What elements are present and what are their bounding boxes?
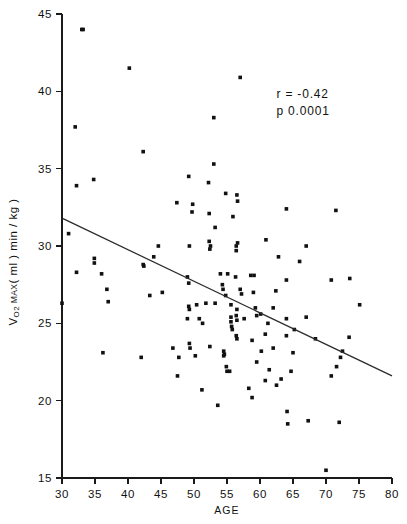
data-point bbox=[212, 116, 216, 120]
data-point bbox=[226, 272, 230, 276]
data-point bbox=[204, 301, 208, 305]
data-point bbox=[213, 301, 217, 305]
regression-line-path bbox=[62, 218, 392, 376]
data-point bbox=[235, 318, 239, 322]
data-point bbox=[229, 320, 233, 324]
data-point bbox=[221, 283, 225, 287]
data-point bbox=[266, 322, 270, 326]
data-point bbox=[60, 301, 64, 305]
y-axis-title-smallcaps: MAX bbox=[9, 284, 19, 306]
data-point bbox=[236, 199, 240, 203]
data-point bbox=[231, 215, 235, 219]
data-point bbox=[329, 374, 333, 378]
axes bbox=[62, 14, 392, 478]
statistics-annotation: r = -0.42p 0.0001 bbox=[277, 87, 330, 118]
data-point bbox=[238, 76, 242, 80]
data-point bbox=[188, 346, 192, 350]
data-point bbox=[274, 289, 278, 293]
data-point bbox=[285, 207, 289, 211]
data-point bbox=[337, 421, 341, 425]
data-point bbox=[188, 342, 192, 346]
data-point bbox=[139, 356, 143, 360]
regression-line bbox=[62, 218, 392, 376]
data-point bbox=[177, 356, 181, 360]
data-point bbox=[75, 184, 79, 188]
data-point bbox=[186, 317, 190, 321]
data-point bbox=[208, 247, 212, 251]
data-point bbox=[271, 306, 275, 310]
data-point bbox=[207, 212, 211, 216]
data-point bbox=[236, 241, 240, 245]
data-point bbox=[335, 365, 339, 369]
x-tick-label: 45 bbox=[154, 488, 168, 500]
data-point bbox=[157, 244, 161, 248]
data-point bbox=[201, 322, 205, 326]
data-point bbox=[298, 260, 302, 264]
data-point bbox=[161, 291, 165, 295]
y-tick-labels: 15202530354045 bbox=[38, 8, 52, 484]
data-point bbox=[229, 315, 233, 319]
data-point bbox=[250, 339, 254, 343]
data-point bbox=[285, 410, 289, 414]
scatter-plot-figure: 15202530354045 3035404550556065707580 r … bbox=[0, 0, 407, 524]
data-point bbox=[234, 314, 238, 318]
data-point bbox=[224, 192, 228, 196]
data-point bbox=[254, 306, 258, 310]
data-point bbox=[230, 325, 234, 329]
data-point bbox=[235, 193, 239, 197]
y-axis-title-text: VO2 MAX( ml ) min / kg ) bbox=[7, 198, 21, 325]
x-tick-label: 65 bbox=[286, 488, 300, 500]
data-point bbox=[358, 303, 362, 307]
x-tick-label: 60 bbox=[253, 488, 267, 500]
data-point bbox=[255, 314, 259, 318]
data-point bbox=[188, 244, 192, 248]
data-point bbox=[242, 317, 246, 321]
data-point bbox=[285, 278, 289, 282]
y-tick-label: 30 bbox=[38, 240, 52, 252]
data-point bbox=[152, 255, 156, 259]
data-point bbox=[263, 332, 267, 336]
data-point bbox=[235, 308, 239, 312]
data-point bbox=[347, 335, 351, 339]
data-point bbox=[339, 356, 343, 360]
data-point bbox=[306, 419, 310, 423]
data-point bbox=[324, 468, 328, 472]
data-point bbox=[247, 386, 251, 390]
y-tick-label: 20 bbox=[38, 395, 52, 407]
data-point bbox=[187, 305, 191, 309]
data-point bbox=[234, 244, 238, 248]
y-axis-title-subscript: O2 bbox=[12, 306, 21, 317]
data-point bbox=[222, 349, 226, 353]
data-point bbox=[263, 379, 267, 383]
data-point bbox=[188, 308, 192, 312]
data-point bbox=[73, 125, 77, 129]
data-point bbox=[190, 210, 194, 214]
data-point bbox=[285, 317, 289, 321]
data-point bbox=[213, 226, 217, 230]
data-point bbox=[212, 162, 216, 166]
data-point bbox=[291, 351, 295, 355]
data-point bbox=[195, 303, 199, 307]
data-point bbox=[240, 292, 244, 296]
data-point bbox=[75, 270, 79, 274]
data-point bbox=[348, 277, 352, 281]
data-point bbox=[304, 315, 308, 319]
data-point bbox=[329, 278, 333, 282]
data-point bbox=[176, 374, 180, 378]
data-point bbox=[67, 232, 71, 236]
data-point bbox=[106, 300, 110, 304]
data-point bbox=[234, 275, 238, 279]
data-point bbox=[234, 249, 238, 253]
data-point bbox=[197, 317, 201, 321]
x-tick-label: 40 bbox=[121, 488, 135, 500]
data-point bbox=[194, 354, 198, 358]
tick-marks bbox=[56, 14, 392, 484]
data-point bbox=[219, 272, 223, 276]
data-point bbox=[187, 281, 191, 285]
x-axis-title: AGE bbox=[214, 504, 239, 516]
data-point bbox=[207, 240, 211, 244]
data-point bbox=[289, 369, 293, 373]
data-point bbox=[275, 383, 279, 387]
data-point bbox=[208, 345, 212, 349]
data-point bbox=[171, 346, 175, 350]
